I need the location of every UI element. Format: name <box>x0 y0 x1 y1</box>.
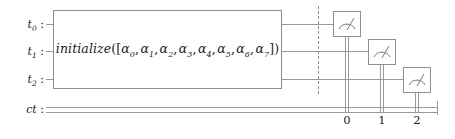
meter-icon <box>404 68 430 92</box>
bit-label-2: 2 <box>407 113 427 127</box>
classical-register-endcap <box>437 101 438 115</box>
measure-t0-gate[interactable] <box>333 11 361 37</box>
wire-label-t1: t1 : <box>10 45 44 60</box>
bit-label-0: 0 <box>337 113 357 127</box>
classical-tick-bit-2 <box>415 103 419 112</box>
wire-label-t0: t0 : <box>10 18 44 33</box>
wire-segment-t0-right <box>282 24 334 25</box>
wire-label-ct: ct : <box>10 103 44 116</box>
classical-tick-bit-0 <box>345 103 349 112</box>
measure-t2-gate[interactable] <box>403 67 431 93</box>
bit-label-1: 1 <box>372 113 392 127</box>
initialize-gate[interactable]: initialize([α0, α1, α2, α3, α4, α5, α6, … <box>53 10 282 89</box>
wire-label-t2: t2 : <box>10 73 44 88</box>
barrier-icon <box>318 6 319 94</box>
classical-tick-bit-1 <box>380 103 384 112</box>
initialize-gate-label: initialize([α0, α1, α2, α3, α4, α5, α6, … <box>54 41 281 59</box>
wire-segment-t2-right <box>282 79 404 80</box>
quantum-circuit-diagram: t0 : t1 : t2 : ct : initialize([α0, α1, … <box>0 0 455 139</box>
meter-icon <box>369 40 395 64</box>
measure-t1-gate[interactable] <box>368 39 396 65</box>
classical-drop-bit-0 <box>345 37 349 109</box>
meter-icon <box>334 12 360 36</box>
wire-segment-t1-right <box>282 51 369 52</box>
